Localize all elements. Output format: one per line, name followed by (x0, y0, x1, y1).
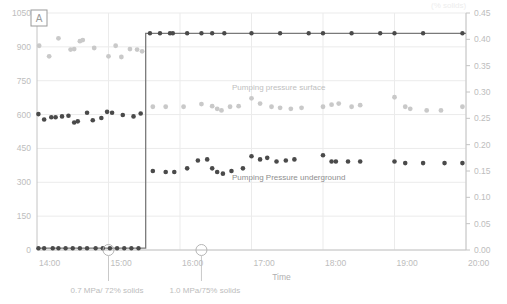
y-axis-left-tick-label: 150 (17, 211, 31, 221)
step-series-point-high (378, 31, 382, 35)
surface-series-point (336, 101, 341, 106)
step-series-point-high (171, 31, 175, 35)
underground-series-point (131, 114, 136, 119)
y-axis-left-tick-label: 750 (17, 76, 31, 86)
step-series-point-low (78, 246, 82, 250)
surface-series-point (349, 104, 354, 109)
x-axis-tick-label: 14:00 (39, 258, 61, 268)
step-series-point-high (249, 31, 253, 35)
step-series-point-low (108, 246, 112, 250)
surface-series-point (210, 104, 215, 109)
y-axis-left-tick-label: 450 (17, 143, 31, 153)
surface-series-point (113, 43, 118, 48)
y-axis-left-tick-label: 0 (26, 245, 31, 255)
callout-annotation-label: 0.7 MPa/ 72% solids (71, 286, 144, 295)
surface-series-point (358, 103, 363, 108)
underground-series-point (421, 161, 426, 166)
underground-series-point (36, 112, 41, 117)
underground-series-point (121, 113, 126, 118)
y-axis-right-tick-label: 0.05 (474, 219, 491, 229)
surface-series-point (135, 47, 140, 52)
x-axis-tick-label: 16:00 (182, 258, 204, 268)
surface-series-point (269, 104, 274, 109)
underground-series-point (442, 161, 447, 166)
surface-series-point (56, 36, 61, 41)
step-series-point-low (56, 246, 60, 250)
step-series-point-high (210, 31, 214, 35)
underground-series-point (90, 118, 95, 123)
surface-series-point (236, 104, 241, 109)
underground-series-point (42, 117, 47, 122)
step-series-point-high (199, 31, 203, 35)
step-series-point-high (148, 31, 152, 35)
underground-series-point (241, 166, 246, 171)
x-axis-tick-label: 19:00 (397, 258, 419, 268)
x-axis-title: Time (272, 272, 291, 282)
surface-series-point (163, 104, 168, 109)
underground-series-point (185, 166, 190, 171)
step-series-point-high (321, 31, 325, 35)
underground-series-label: Pumping Pressure underground (232, 173, 345, 182)
y-axis-right-tick-label: 0.35 (474, 61, 491, 71)
underground-series-point (321, 153, 326, 158)
underground-series-point (138, 111, 143, 116)
step-series-point-low (51, 246, 55, 250)
surface-series-point (150, 104, 155, 109)
underground-series-point (334, 159, 339, 164)
surface-series-point (278, 105, 283, 110)
underground-series-point (151, 169, 156, 174)
chart-svg: 015030045060075090010500.000.050.100.150… (0, 0, 507, 304)
underground-series-point (274, 159, 279, 164)
underground-series-point (392, 159, 397, 164)
surface-series-point (228, 104, 233, 109)
underground-series-point (105, 110, 110, 115)
underground-series-point (210, 166, 215, 171)
step-series-point-high (158, 31, 162, 35)
y-axis-right-tick-label: 0.25 (474, 113, 491, 123)
step-series-point-low (115, 246, 119, 250)
underground-series-point (60, 114, 65, 119)
underground-series-point (284, 158, 289, 163)
surface-series-point (37, 43, 42, 48)
step-series-point-high (222, 31, 226, 35)
underground-series-point (292, 157, 297, 162)
y-axis-right-tick-label: 0.30 (474, 87, 491, 97)
step-series-point-high (460, 31, 464, 35)
x-axis-tick-label: 17:00 (254, 258, 276, 268)
surface-series-point (288, 106, 293, 111)
y-axis-right-tick-label: 0.10 (474, 192, 491, 202)
step-series-point-low (63, 246, 67, 250)
callout-annotation-label: 1.0 MPa/75% solids (169, 286, 240, 295)
surface-series-point (119, 55, 124, 60)
surface-series-point (439, 108, 444, 113)
step-series-point-low (129, 246, 133, 250)
surface-series-point (299, 105, 304, 110)
step-series-point-high (307, 31, 311, 35)
y-axis-left-tick-label: 600 (17, 110, 31, 120)
surface-series-point (80, 38, 85, 43)
surface-series-point (258, 101, 263, 106)
step-series-point-low (36, 246, 40, 250)
y-axis-left-tick-label: 1050 (12, 8, 31, 18)
underground-series-point (99, 116, 104, 121)
surface-series-point (460, 104, 465, 109)
y-axis-right-tick-label: 0.00 (474, 245, 491, 255)
right-axis-unit-note: (% solids) (431, 1, 466, 10)
underground-series-point (205, 157, 210, 162)
underground-series-point (346, 159, 351, 164)
surface-series-point (249, 96, 254, 101)
underground-series-point (221, 171, 226, 176)
underground-series-point (403, 161, 408, 166)
plot-frame (37, 13, 470, 250)
y-axis-left-tick-label: 900 (17, 42, 31, 52)
chart-container: 015030045060075090010500.000.050.100.150… (0, 0, 507, 304)
y-axis-right-tick-label: 0.20 (474, 140, 491, 150)
underground-series-point (196, 158, 201, 163)
surface-series-point (219, 108, 224, 113)
surface-series-point (181, 104, 186, 109)
y-axis-left-tick-label: 300 (17, 177, 31, 187)
underground-series-point (49, 115, 54, 120)
underground-series-point (163, 170, 168, 175)
surface-series-point (199, 102, 204, 107)
underground-series-point (460, 161, 465, 166)
